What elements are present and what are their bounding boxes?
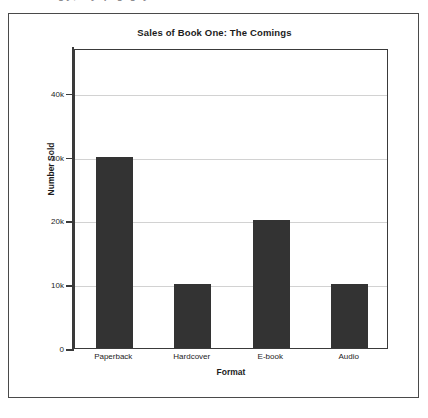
clipped-caption-text: gy, by p g g y (58, 0, 370, 1)
plot-area (74, 49, 388, 349)
bar-audio (331, 284, 368, 348)
y-tick-label: 20k (24, 217, 64, 226)
bar-hardcover (174, 284, 211, 348)
bars-layer (75, 50, 387, 348)
x-tick-label: Paperback (94, 352, 132, 361)
y-tick-label: 0 (24, 345, 64, 354)
x-tick-label: Hardcover (173, 352, 210, 361)
x-axis-title: Format (74, 367, 388, 377)
y-tick-label: 40k (24, 89, 64, 98)
bar-paperback (96, 157, 133, 348)
y-tick-label: 30k (24, 153, 64, 162)
y-tick-mark (66, 94, 72, 96)
y-tick-mark (66, 158, 72, 160)
figure-frame: Sales of Book One: The Comings Number So… (8, 13, 419, 398)
x-tick-label: Audio (339, 352, 359, 361)
y-tick-mark (66, 221, 72, 223)
x-tick-label: E-book (258, 352, 283, 361)
y-tick-label: 10k (24, 281, 64, 290)
y-tick-mark (66, 285, 72, 287)
chart-title: Sales of Book One: The Comings (9, 27, 420, 38)
y-tick-mark (66, 349, 72, 351)
clipped-caption-strip: gy, by p g g y (0, 0, 428, 9)
bar-e-book (253, 220, 290, 348)
x-axis-tick-labels: PaperbackHardcoverE-bookAudio (74, 352, 388, 366)
y-axis-tick-labels: 010k20k30k40k (19, 49, 64, 349)
